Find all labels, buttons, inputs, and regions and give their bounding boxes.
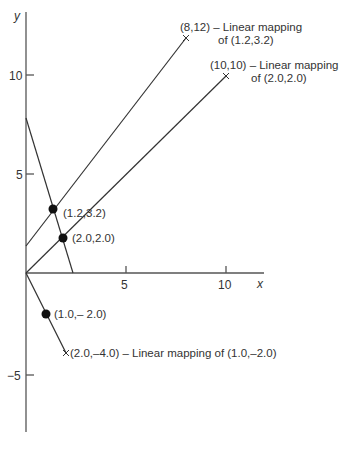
label-point-2-0-2-0: (2.0,2.0) (72, 232, 115, 244)
cross-marker-8-12 (183, 35, 189, 41)
y-tick-label-neg5: −5 (7, 369, 21, 383)
label-mapped-8-12-line1: (8,12) – Linear mapping (180, 21, 302, 33)
line-origin-to-10-10 (26, 76, 226, 273)
cross-marker-10-10 (223, 73, 229, 79)
y-tick-label-5: 5 (16, 168, 23, 182)
x-axis-label: x (256, 277, 264, 291)
label-point-1-0-neg2-0: (1.0,– 2.0) (54, 308, 107, 320)
x-tick-label-10: 10 (218, 278, 232, 292)
point-2-0-2-0 (59, 234, 68, 243)
y-tick-label-10: 10 (9, 69, 23, 83)
x-tick-label-5: 5 (121, 278, 128, 292)
label-mapped-10-10-line2: of (2.0,2.0) (251, 72, 307, 84)
y-axis-label: y (13, 9, 21, 23)
cross-marker-2-neg4 (63, 350, 69, 356)
line-to-8-12 (26, 38, 186, 246)
label-mapped-8-12-line2: of (1.2,3.2) (218, 34, 274, 46)
label-mapped-2-neg4: (2.0,–4.0) – Linear mapping of (1.0,–2.0… (70, 347, 277, 359)
linear-mapping-diagram: y x 5 10 10 5 −5 (1.2,3.2) (2.0,2.0) (1.… (0, 0, 360, 450)
label-mapped-10-10-line1: (10,10) – Linear mapping (210, 59, 339, 71)
label-point-1-2-3-2: (1.2,3.2) (63, 207, 106, 219)
point-1-0-neg2-0 (42, 310, 51, 319)
point-1-2-3-2 (49, 205, 58, 214)
